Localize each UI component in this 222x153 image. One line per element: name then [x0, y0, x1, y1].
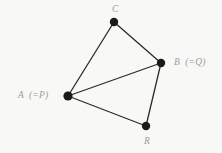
figure-canvas: [0, 0, 222, 153]
vertex-point-r: [142, 122, 150, 130]
edge-c-b: [114, 22, 161, 63]
edge-a-r: [68, 96, 146, 126]
edges-group: [68, 22, 161, 126]
geometry-figure: CB (=Q)A (=P)R: [0, 0, 222, 153]
edge-a-b: [68, 63, 161, 96]
vertex-point-c: [110, 18, 118, 26]
vertex-label-c: C: [112, 5, 119, 15]
edge-a-c: [68, 22, 114, 96]
edge-r-b: [146, 63, 161, 126]
vertex-point-a: [63, 91, 72, 100]
vertex-label-a: A (=P): [18, 91, 48, 101]
vertex-label-b: B (=Q): [174, 58, 206, 68]
vertex-label-r: R: [144, 137, 150, 147]
vertex-point-b: [157, 59, 165, 67]
